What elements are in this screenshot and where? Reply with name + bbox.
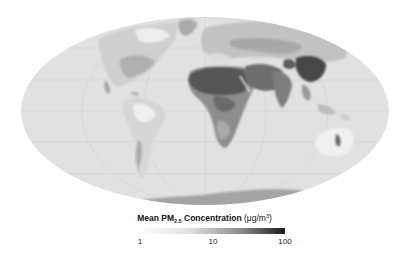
legend-title-prefix: Mean PM: [137, 213, 174, 223]
colorbar-tick-10: 10: [209, 237, 218, 246]
legend-title: Mean PM2.5 Concentration (μg/m3): [0, 213, 409, 224]
region-europe-asia: [201, 22, 347, 62]
legend-title-subscript: 2.5: [174, 218, 182, 224]
colorbar-tick-100: 100: [278, 237, 291, 246]
colorbar: [140, 228, 285, 234]
legend-unit-prefix: (μg/m: [242, 213, 266, 223]
legend-title-suffix: Concentration: [182, 213, 242, 223]
colorbar-tick-1: 1: [138, 237, 142, 246]
legend-unit-suffix: ): [269, 213, 272, 223]
world-map: [0, 0, 409, 215]
